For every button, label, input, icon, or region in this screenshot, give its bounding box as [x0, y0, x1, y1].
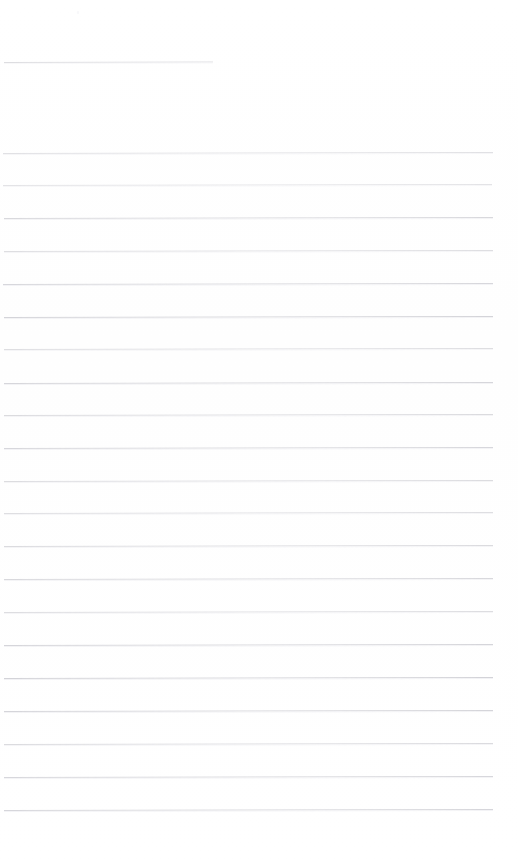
ruled-line	[4, 250, 493, 252]
ruled-line	[4, 316, 493, 318]
ruled-line	[4, 480, 493, 482]
ruled-line	[4, 382, 493, 384]
ruled-line	[4, 776, 493, 778]
ruled-line	[4, 348, 493, 350]
paper-background	[0, 0, 518, 864]
ruled-line	[4, 809, 493, 811]
ruled-line	[4, 414, 493, 416]
ruled-line	[3, 184, 492, 186]
page-text-content	[0, 0, 1, 1]
scan-speck	[77, 11, 79, 14]
ruled-line	[4, 512, 493, 514]
ruled-line	[3, 283, 493, 285]
ruled-line	[4, 743, 493, 745]
scanned-page	[0, 0, 518, 864]
ruled-line	[4, 447, 493, 449]
ruled-line	[4, 545, 493, 547]
ruled-line	[3, 152, 493, 154]
ruled-line	[4, 644, 493, 646]
ruled-line	[4, 578, 493, 580]
ruled-line	[4, 217, 493, 219]
ruled-line	[4, 710, 493, 712]
ruled-line	[4, 677, 493, 679]
header-rule	[4, 61, 213, 63]
ruled-line	[4, 611, 493, 613]
